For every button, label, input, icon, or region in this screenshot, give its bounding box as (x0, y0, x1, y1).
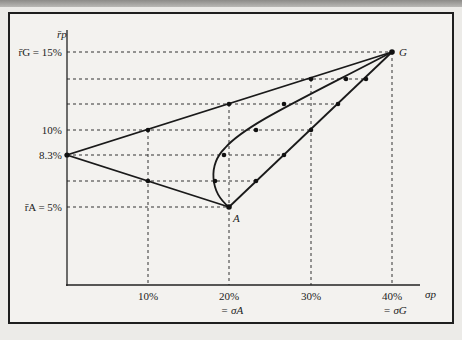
x-tick-20: 20% (219, 290, 239, 302)
x-tick-20-sub: = σA (221, 304, 244, 316)
x-tick-10: 10% (138, 290, 158, 302)
y-tick-15: r̄G = 15% (19, 46, 62, 58)
y-tick-10: 10% (42, 124, 62, 136)
x-tick-40-sub: = σG (383, 304, 407, 316)
x-axis-label: σp (425, 288, 436, 300)
x-tick-40: 40% (382, 290, 402, 302)
y-tick-5: r̄A = 5% (25, 201, 62, 213)
y-tick-8-3: 8.3% (39, 149, 62, 161)
risk-return-diagram: r̄p σp r̄G = 15% 10% 8.3% r̄A = 5% 10% 2… (0, 0, 462, 340)
x-tick-30: 30% (301, 290, 321, 302)
point-label-a: A (232, 212, 240, 224)
reference-gridlines (67, 52, 392, 285)
y-axis-label: r̄p (57, 28, 67, 40)
point-label-g: G (399, 46, 407, 58)
